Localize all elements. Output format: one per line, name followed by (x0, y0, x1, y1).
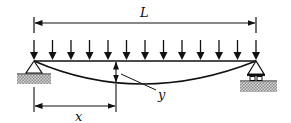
ground-hatch (240, 82, 277, 92)
load-arrow-icon (178, 40, 186, 60)
deflection-leader-line (121, 74, 156, 90)
position-label: x (75, 109, 83, 123)
span-label: L (139, 5, 149, 20)
roller-wheel-icon (257, 77, 262, 81)
deflection-label: y (157, 87, 166, 102)
load-arrow-icon (197, 40, 205, 60)
load-arrow-icon (49, 40, 57, 60)
load-arrow-icon (123, 40, 131, 60)
load-arrow-icon (141, 40, 149, 60)
beam-deflection-curve (34, 61, 256, 84)
load-arrow-icon (67, 40, 75, 60)
load-arrow-icon (215, 40, 223, 60)
beam-diagram: L y (0, 0, 291, 123)
roller-plate (247, 74, 265, 76)
ground-hatch (17, 75, 51, 84)
load-arrow-icon (86, 40, 94, 60)
deflection-indicator: y (116, 62, 166, 102)
roller-wheel-icon (250, 77, 255, 81)
position-dimension: x (34, 84, 116, 123)
pin-support-left (17, 61, 51, 84)
load-arrow-icon (30, 40, 38, 60)
load-arrow-icon (234, 40, 242, 60)
load-arrow-icon (252, 40, 260, 60)
load-arrow-icon (160, 40, 168, 60)
load-arrow-icon (104, 40, 112, 60)
distributed-load (30, 40, 260, 60)
span-dimension: L (34, 5, 256, 33)
